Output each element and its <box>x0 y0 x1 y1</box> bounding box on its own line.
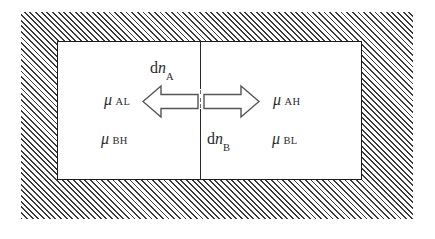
label-dn-a: dnA <box>150 60 174 80</box>
dn-b-subscript: B <box>223 142 230 153</box>
left-arrow-icon <box>142 84 199 119</box>
dn-b-variable: n <box>215 130 223 147</box>
mu-bh-symbol: μ <box>101 130 109 147</box>
partition-gap-dash <box>200 104 201 108</box>
central-partition-lower <box>200 109 201 180</box>
central-partition-upper <box>200 41 201 89</box>
mu-bl-subscript: BL <box>284 135 298 146</box>
right-arrow-icon <box>203 84 260 119</box>
label-mu-bl: μBL <box>272 131 298 147</box>
mu-ah-symbol: μ <box>273 91 281 108</box>
mu-bl-symbol: μ <box>272 130 280 147</box>
diagram-canvas: dnA μAL μAH μBH dnB μBL <box>0 0 435 239</box>
mu-al-subscript: AL <box>116 96 131 107</box>
dn-b-base: d <box>207 130 215 147</box>
mu-ah-subscript: AH <box>285 96 301 107</box>
dn-a-variable: n <box>158 59 166 76</box>
mu-bh-subscript: BH <box>113 135 128 146</box>
label-mu-bh: μBH <box>101 131 128 147</box>
mu-al-symbol: μ <box>104 91 112 108</box>
label-mu-al: μAL <box>104 92 130 108</box>
dn-a-subscript: A <box>166 71 174 82</box>
partition-gap-dash <box>200 98 201 102</box>
partition-gap-dash <box>200 90 201 94</box>
label-mu-ah: μAH <box>273 92 300 108</box>
dn-a-base: d <box>150 59 158 76</box>
label-dn-b: dnB <box>207 131 230 151</box>
